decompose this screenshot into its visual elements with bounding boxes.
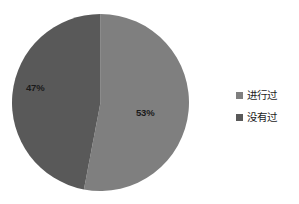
legend-item-label: 没有过 xyxy=(247,112,277,123)
pie-svg xyxy=(12,14,189,191)
pie-slice-not-progressed[interactable] xyxy=(12,14,100,189)
chart-legend: 进行过 没有过 xyxy=(236,84,296,128)
pie-slice-label-1: 47% xyxy=(26,82,44,93)
legend-item-label: 进行过 xyxy=(247,90,277,101)
pie-slice-label-0: 53% xyxy=(136,107,154,118)
legend-item-not-progressed[interactable]: 没有过 xyxy=(236,106,296,128)
pie-chart: 53% 47% 进行过 没有过 xyxy=(0,0,299,204)
square-marker-icon xyxy=(236,114,243,121)
legend-item-progressed[interactable]: 进行过 xyxy=(236,84,296,106)
square-marker-icon xyxy=(236,92,243,99)
pie-graphic xyxy=(12,14,189,191)
